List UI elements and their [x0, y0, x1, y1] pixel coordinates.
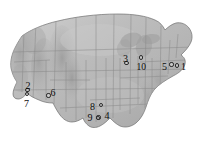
- site-label-9: 9: [88, 113, 93, 123]
- site-label-7: 7: [24, 99, 29, 109]
- us-site-map-figure: 1 2 3 4 5 6 7 8: [0, 0, 207, 157]
- site-label-4: 4: [105, 111, 110, 121]
- site-dot-7[interactable]: [25, 92, 29, 96]
- site-dot-5[interactable]: [169, 62, 173, 66]
- site-marker-layer: 1 2 3 4 5 6 7 8: [0, 0, 207, 157]
- site-label-8: 8: [90, 102, 95, 112]
- site-dot-10[interactable]: [139, 55, 143, 59]
- site-label-6: 6: [51, 88, 56, 98]
- site-dot-1[interactable]: [175, 63, 179, 67]
- site-label-5: 5: [162, 62, 167, 72]
- site-label-1: 1: [181, 62, 186, 72]
- site-label-3: 3: [123, 54, 128, 64]
- site-label-10: 10: [137, 62, 147, 72]
- site-dot-8[interactable]: [99, 103, 103, 107]
- site-label-2: 2: [26, 81, 31, 91]
